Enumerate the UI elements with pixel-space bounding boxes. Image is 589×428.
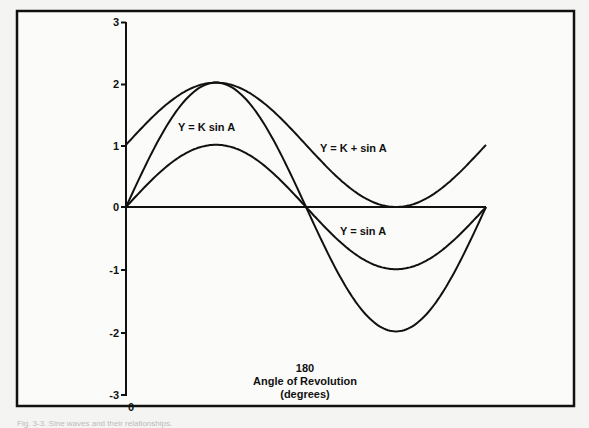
x-tick-label-0: 0	[128, 401, 134, 413]
x-tick-label-180: 180	[296, 362, 314, 374]
y-tick-label: -3	[109, 389, 119, 401]
chart-frame	[17, 11, 574, 406]
x-axis-title: Angle of Revolution	[253, 375, 357, 387]
y-tick-label: 2	[113, 78, 119, 90]
x-axis-title-units: (degrees)	[280, 388, 330, 400]
y-tick-label: -2	[109, 327, 119, 339]
y-tick-label: 3	[113, 16, 119, 28]
label-k-plus-sin-a: Y = K + sin A	[320, 142, 387, 154]
label-k-sin-a: Y = K sin A	[178, 121, 235, 133]
y-tick-label: 0	[113, 201, 119, 213]
y-tick-label: -1	[109, 264, 119, 276]
label-sin-a: Y = sin A	[340, 225, 386, 237]
figure-caption: Fig. 3-3. Sine waves and their relations…	[17, 419, 172, 428]
y-tick-label: 1	[113, 140, 119, 152]
sine-wave-chart: 3 2 1 0 -1 -2 -3 Y = K sin A Y = K + sin…	[0, 0, 589, 428]
